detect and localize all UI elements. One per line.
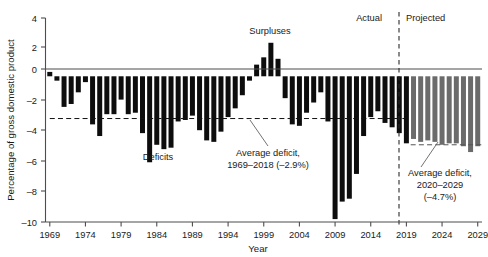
x-tick-label-1989: 1989 [182,230,203,240]
y-tick-label--4: –4 [27,126,37,136]
bar-actual-2006 [311,76,316,102]
bar-actual-2014 [368,76,373,117]
x-tick-label-2029: 2029 [467,230,488,240]
actual-label: Actual [356,13,382,23]
y-tick-label-2: 2 [32,43,37,53]
bar-actual-2003 [290,76,295,124]
callout-projected-line2: 2020–2029 [417,180,464,190]
y-axis: 4 2 0 –2 –4 –6 –8 –10 Percentage of gros… [5,14,46,228]
bar-projected-2024 [440,76,445,144]
y-tick-label--8: –8 [27,187,37,197]
x-ticks-layer: 1969197419791984198919941999200420092014… [39,222,488,240]
x-tick-label-2019: 2019 [396,230,417,240]
bar-actual-2001 [276,59,281,76]
bar-projected-2029 [475,76,480,146]
bar-actual-1985 [161,76,166,149]
bar-actual-1984 [154,76,159,144]
bar-actual-1993 [218,76,223,131]
projected-label: Projected [406,13,445,23]
bar-projected-2026 [454,76,459,143]
bar-actual-2009 [333,76,338,219]
bar-actual-1988 [183,76,188,120]
bar-actual-1987 [176,76,181,121]
bar-actual-1973 [76,76,81,92]
x-tick-label-1999: 1999 [253,230,274,240]
y-axis-title: Percentage of gross domestic product [5,39,16,201]
x-tick-label-2004: 2004 [289,230,310,240]
gdp-deficit-chart: 4 2 0 –2 –4 –6 –8 –10 Percentage of gros… [0,0,488,257]
y-tick-label--6: –6 [27,157,37,167]
x-axis-title: Year [248,243,268,254]
bar-actual-1977 [104,76,109,114]
bar-actual-1990 [197,76,202,130]
y-tick-label--2: –2 [27,96,37,106]
x-tick-label-1979: 1979 [111,230,132,240]
bar-projected-2028 [468,76,473,152]
bar-projected-2020 [411,76,416,139]
bar-actual-1974 [83,76,88,82]
bar-actual-2019 [404,76,409,143]
callout-leader-actual [250,120,268,146]
x-tick-label-2024: 2024 [432,230,453,240]
x-tick-label-2014: 2014 [360,230,381,240]
bar-actual-1979 [119,76,124,99]
average-deficit-projected-callout: Average deficit, 2020–2029 (–4.7%) [408,142,472,202]
bar-actual-1981 [133,76,138,112]
bar-actual-1994 [226,76,231,117]
bar-actual-1971 [62,76,67,107]
bar-projected-2023 [432,76,437,142]
bar-actual-1991 [204,76,209,140]
reference-lines-layer [50,119,482,145]
bar-actual-2013 [361,76,366,136]
bar-actual-1980 [126,76,131,114]
callout-projected-line1: Average deficit, [408,168,472,178]
bar-actual-2015 [375,76,380,111]
bar-projected-2025 [447,76,452,143]
callout-projected-line3: (–4.7%) [424,192,457,202]
chart-svg: 4 2 0 –2 –4 –6 –8 –10 Percentage of gros… [0,0,488,257]
bar-projected-2021 [418,76,423,142]
bar-actual-1972 [69,76,74,104]
x-axis: 1969197419791984198919941999200420092014… [39,222,488,254]
bar-actual-2017 [390,76,395,127]
bar-actual-1970 [54,76,59,80]
callout-leader-projected [421,142,438,167]
bar-actual-2012 [354,76,359,174]
bar-actual-1998 [254,65,259,77]
deficits-label: Deficits [143,152,174,162]
average-deficit-actual-callout: Average deficit, 1969–2018 (–2.9%) [227,120,309,170]
bar-actual-1969 [47,72,52,76]
bar-actual-2011 [347,76,352,198]
callout-actual-line1: Average deficit, [236,148,300,158]
bar-actual-2002 [283,76,288,98]
y-tick-label--10: –10 [21,218,37,228]
callout-actual-line2: 1969–2018 (–2.9%) [227,160,309,170]
bar-actual-1989 [190,76,195,115]
x-tick-label-1969: 1969 [39,230,60,240]
y-tick-label-4: 4 [32,14,37,24]
bar-actual-2007 [318,76,323,92]
x-tick-label-1984: 1984 [146,230,167,240]
bar-actual-1982 [140,76,145,133]
bar-projected-2022 [425,76,430,140]
bar-actual-1975 [90,76,95,124]
bar-actual-2010 [340,76,345,201]
bar-actual-2005 [304,76,309,112]
bar-actual-1995 [233,76,238,108]
bar-actual-2016 [383,76,388,123]
y-tick-label-0: 0 [32,65,37,75]
bar-actual-1992 [211,76,216,142]
bar-actual-1983 [147,76,152,162]
bar-actual-1997 [247,76,252,80]
x-tick-label-2009: 2009 [325,230,346,240]
x-tick-label-1994: 1994 [218,230,239,240]
bar-actual-1996 [240,76,245,95]
bar-actual-2008 [325,76,330,121]
bar-actual-1986 [169,76,174,147]
bar-actual-1976 [97,76,102,136]
bar-actual-1978 [111,76,116,114]
x-tick-label-1974: 1974 [75,230,96,240]
bar-actual-2000 [268,43,273,77]
bar-actual-1999 [261,57,266,76]
surpluses-label: Surpluses [249,26,291,36]
